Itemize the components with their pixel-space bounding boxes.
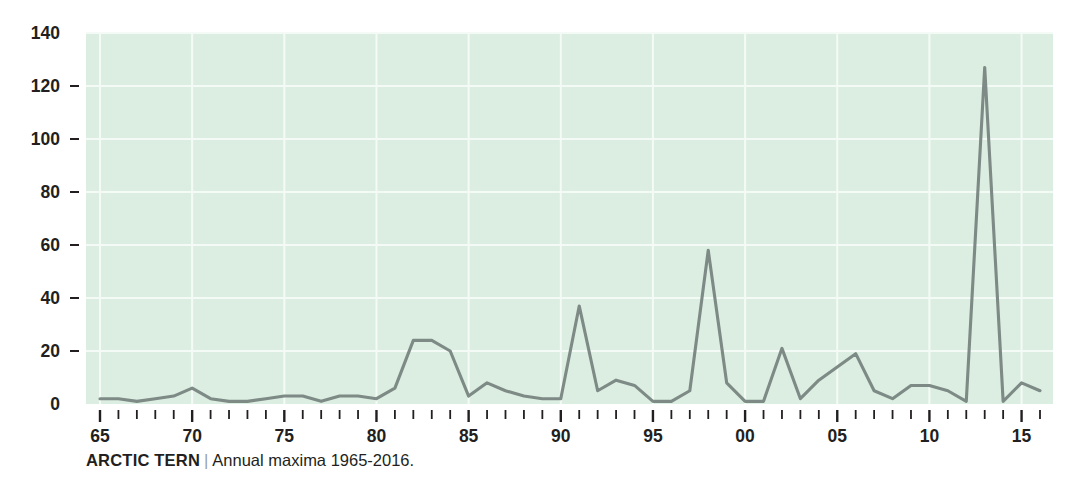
x-tick-label-2005: 05: [828, 426, 848, 446]
caption-title: ARCTIC TERN: [86, 451, 200, 469]
y-tick-label-40: 40: [41, 288, 61, 308]
x-axis-tick-labels: 6570758085909500051015: [90, 426, 1031, 446]
y-axis-tick-marks: [70, 86, 79, 351]
caption-subtitle: Annual maxima 1965-2016.: [212, 451, 414, 469]
x-axis-tick-marks: [100, 410, 1040, 422]
y-tick-label-60: 60: [41, 235, 61, 255]
y-tick-label-80: 80: [41, 182, 61, 202]
chart-caption: ARCTIC TERN|Annual maxima 1965-2016.: [86, 452, 414, 469]
line-chart: 020406080100120140 657075808590950005101…: [0, 0, 1085, 491]
x-tick-label-1980: 80: [367, 426, 387, 446]
x-tick-label-2015: 15: [1012, 426, 1032, 446]
x-tick-label-1985: 85: [459, 426, 479, 446]
y-tick-label-20: 20: [41, 341, 61, 361]
x-tick-label-1965: 65: [90, 426, 110, 446]
caption-separator: |: [200, 451, 212, 469]
y-tick-label-140: 140: [31, 23, 60, 43]
chart-figure: 020406080100120140 657075808590950005101…: [0, 0, 1085, 491]
x-tick-label-1975: 75: [275, 426, 295, 446]
y-tick-label-100: 100: [31, 129, 60, 149]
x-tick-label-1995: 95: [643, 426, 663, 446]
x-tick-label-1970: 70: [182, 426, 202, 446]
x-tick-label-2000: 00: [735, 426, 755, 446]
y-tick-label-120: 120: [31, 76, 60, 96]
x-tick-label-2010: 10: [920, 426, 940, 446]
y-axis-tick-labels: 020406080100120140: [31, 23, 60, 414]
y-tick-label-0: 0: [50, 394, 60, 414]
x-tick-label-1990: 90: [551, 426, 571, 446]
